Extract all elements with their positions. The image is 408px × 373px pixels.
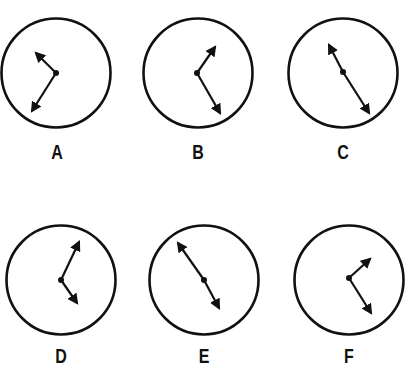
clock-label-d: D <box>45 346 77 366</box>
clock-hand-1 <box>36 53 56 73</box>
clock-hand-2 <box>32 73 56 111</box>
clock-d <box>7 226 116 335</box>
clock-hand-2 <box>349 278 371 313</box>
clock-label-e: E <box>188 346 220 366</box>
clock-diagram <box>0 0 408 373</box>
clock-hand-1 <box>349 259 370 278</box>
clock-hand-1 <box>197 47 215 73</box>
clock-pivot <box>340 69 346 75</box>
clock-hand-2 <box>197 73 220 113</box>
clock-label-b: B <box>182 142 214 162</box>
clock-pivot <box>58 277 64 283</box>
clock-hand-1 <box>329 45 343 72</box>
clock-hand-2 <box>61 280 77 303</box>
clock-hand-1 <box>178 243 204 280</box>
clock-label-a: A <box>41 142 73 162</box>
clock-f <box>295 226 404 335</box>
clock-pivot <box>53 70 59 76</box>
clock-pivot <box>346 275 352 281</box>
clock-hand-1 <box>61 242 79 280</box>
clock-b <box>144 19 253 128</box>
clock-pivot <box>194 70 200 76</box>
clock-label-f: F <box>333 346 365 366</box>
clock-e <box>150 226 259 335</box>
clock-hand-2 <box>204 280 219 308</box>
clock-hand-2 <box>343 72 369 113</box>
clock-c <box>289 19 398 128</box>
clock-a <box>2 19 111 128</box>
clock-label-c: C <box>327 142 359 162</box>
clock-pivot <box>201 277 207 283</box>
